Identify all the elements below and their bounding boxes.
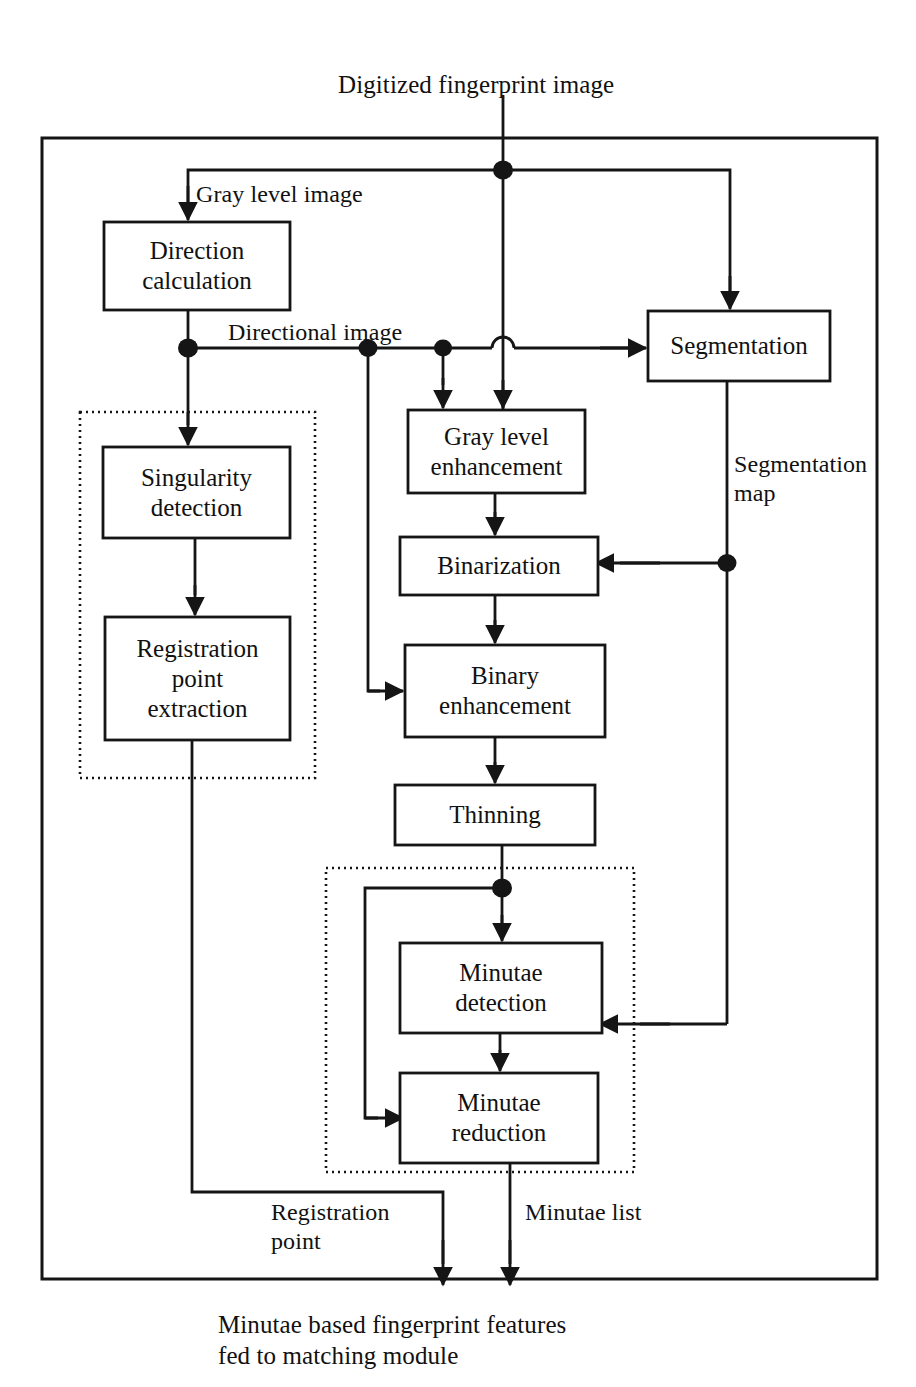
diagram-canvas: Digitized fingerprint image Gray level i… [0,0,916,1387]
node-minutae-reduction [400,1073,598,1163]
node-registration-point-extraction [105,617,290,740]
junction-dot-directional-a [178,339,198,358]
node-binarization [400,537,598,595]
node-minutae-detection [400,943,602,1033]
node-binary-enhancement [405,645,605,737]
junction-dot-minutae-split [492,879,512,898]
node-segmentation [648,311,830,381]
flowchart-graphics [0,0,916,1387]
node-thinning [395,785,595,845]
node-gray-level-enhancement [408,410,585,493]
edge-label-segmentation-map: Segmentation map [734,450,867,509]
edge-label-directional-image: Directional image [228,318,402,347]
input-label: Digitized fingerprint image [338,70,614,101]
edge-label-registration-point: Registration point [271,1198,390,1257]
junction-dot-segmentation-split [718,554,737,572]
edge-directional-to-binary-enh [368,348,380,691]
edge-gray-level-bus-right [503,170,730,300]
edge-label-gray-level-image: Gray level image [196,180,363,209]
junction-dot-directional-c [434,340,452,357]
junction-dot-input-split [493,161,513,180]
edge-label-minutae-list: Minutae list [525,1198,642,1227]
output-label: Minutae based fingerprint features fed t… [218,1310,566,1371]
node-direction-calculation [104,222,290,310]
node-singularity-detection [103,447,290,538]
